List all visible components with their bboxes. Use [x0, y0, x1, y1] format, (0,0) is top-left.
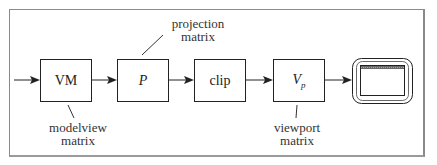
viewport-block: Vp: [273, 59, 325, 102]
arrow-vm-to-p: [92, 76, 117, 84]
viewport-annotation: viewport matrix: [258, 121, 336, 147]
projection-block: P: [117, 59, 169, 102]
clip-block: clip: [194, 59, 246, 102]
modelview-block-label: VM: [55, 73, 78, 89]
arrow-p-to-clip: [169, 76, 194, 84]
modelview-block: VM: [40, 59, 92, 102]
projection-block-label: P: [139, 73, 148, 89]
viewport-annotation-line2: matrix: [258, 134, 336, 147]
modelview-leader: [68, 105, 74, 118]
viewport-block-main: V: [292, 72, 301, 87]
arrow-vp-to-monitor: [325, 76, 352, 84]
arrow-clip-to-vp: [246, 76, 273, 84]
input-arrow: [14, 76, 40, 84]
projection-annotation: projection matrix: [156, 17, 240, 43]
monitor-icon: [353, 59, 413, 104]
modelview-annotation-line2: matrix: [38, 134, 118, 147]
modelview-annotation: modelview matrix: [38, 121, 118, 147]
viewport-block-subscript: p: [301, 79, 306, 89]
viewport-block-label: Vp: [292, 72, 305, 90]
pipeline-diagram: VM P clip Vp modelview matrix projection…: [0, 0, 437, 165]
projection-annotation-line2: matrix: [156, 30, 240, 43]
clip-block-label: clip: [210, 73, 231, 89]
viewport-leader: [296, 105, 297, 118]
